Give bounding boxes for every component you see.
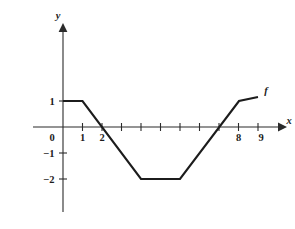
curve-label-f: f (264, 85, 269, 96)
y-tick-label-neg2: −2 (43, 174, 54, 185)
y-axis-label: y (54, 10, 61, 21)
y-axis-group (59, 23, 68, 212)
origin-label-0: 0 (49, 132, 54, 143)
coordinate-plane: y x f 0 1 2 8 9 1 −1 −2 (0, 0, 295, 229)
function-curve-f (63, 97, 258, 179)
y-tick-label-1: 1 (49, 96, 54, 107)
y-axis-arrow-icon (59, 23, 68, 32)
x-axis-label: x (285, 115, 291, 126)
x-tick-label-9: 9 (258, 132, 263, 143)
x-tick-label-1: 1 (80, 132, 85, 143)
graph-figure: y x f 0 1 2 8 9 1 −1 −2 (0, 0, 295, 229)
x-tick-label-2: 2 (99, 132, 104, 143)
x-tick-label-8: 8 (236, 132, 241, 143)
y-tick-label-neg1: −1 (43, 148, 54, 159)
